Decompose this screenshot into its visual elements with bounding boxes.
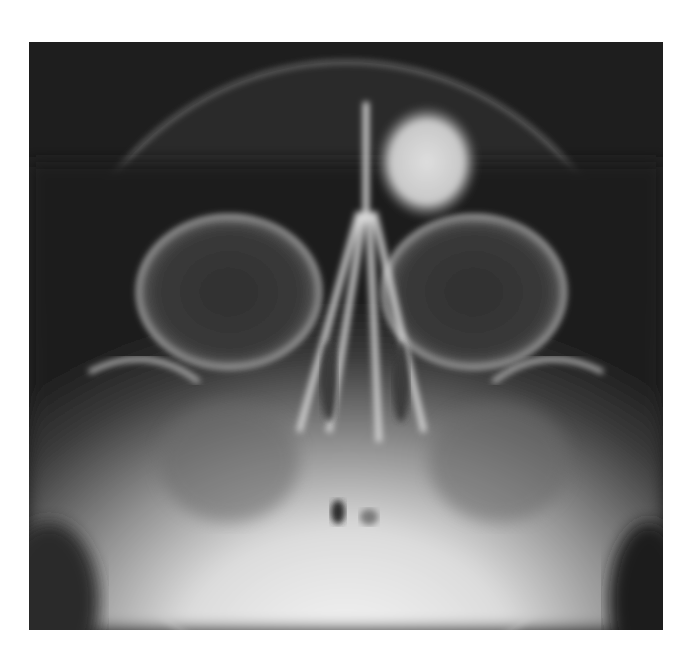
- skull-radiograph: [29, 42, 663, 630]
- xray-image: [29, 42, 663, 630]
